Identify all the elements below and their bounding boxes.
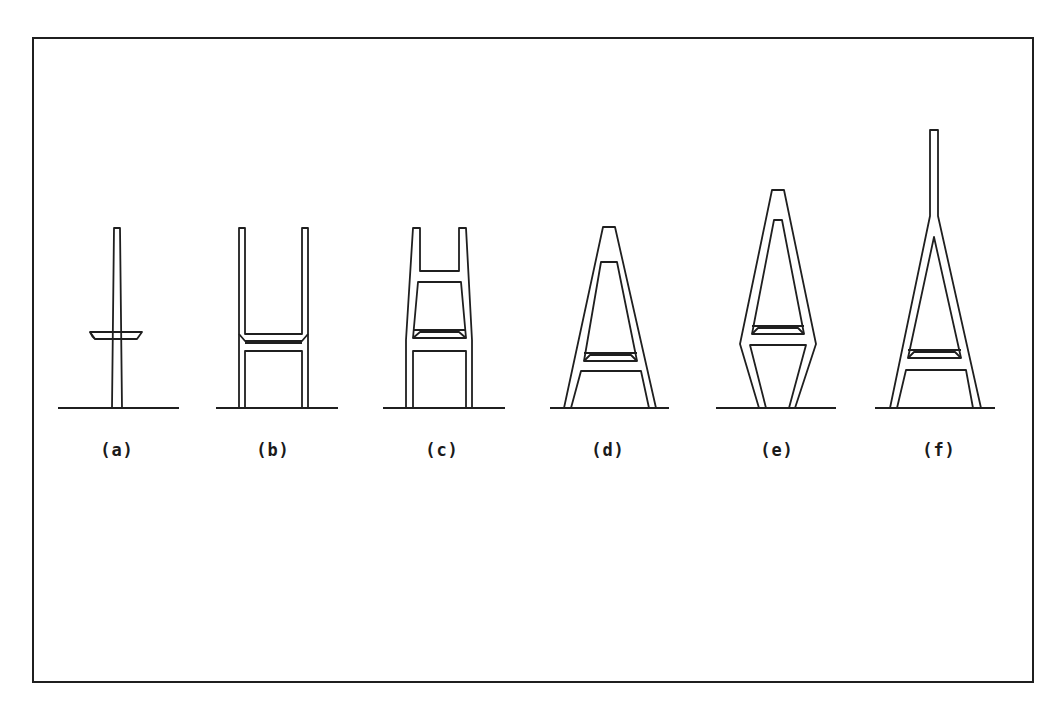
- tower-b: [216, 228, 338, 408]
- tower-outline: [406, 228, 472, 408]
- tower-outline: [112, 228, 122, 408]
- tower-outline: [245, 351, 302, 408]
- caption-a: (a): [100, 440, 134, 460]
- tower-outline: [908, 237, 961, 358]
- caption-d: (d): [591, 440, 625, 460]
- tower-outline: [571, 371, 649, 408]
- tower-outline: [90, 332, 95, 339]
- tower-outline: [90, 332, 142, 339]
- tower-f: [875, 130, 995, 408]
- tower-outline: [740, 190, 816, 408]
- tower-outline: [413, 351, 466, 408]
- tower-outline: [897, 370, 973, 408]
- figure-canvas: [0, 0, 1064, 716]
- tower-a: [58, 228, 179, 408]
- tower-configurations-figure: (a)(b)(c)(d)(e)(f): [0, 0, 1064, 716]
- tower-e: [716, 190, 836, 408]
- tower-c: [383, 228, 505, 408]
- tower-outline: [890, 130, 981, 408]
- tower-d: [550, 227, 669, 408]
- caption-e: (e): [760, 440, 794, 460]
- tower-outline: [239, 228, 308, 408]
- caption-f: (f): [922, 440, 956, 460]
- tower-outline: [752, 220, 804, 334]
- caption-c: (c): [425, 440, 459, 460]
- caption-b: (b): [256, 440, 290, 460]
- tower-outline: [239, 334, 308, 341]
- figure-frame: [33, 38, 1033, 682]
